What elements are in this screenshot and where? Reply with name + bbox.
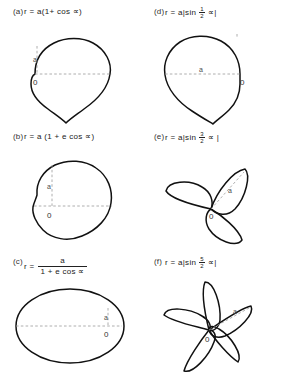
radius-label: a [199, 66, 203, 73]
panel-a-plot: a 0 [0, 24, 140, 125]
panel-f-svg: a 0 [141, 274, 281, 375]
rose-petal [184, 330, 215, 371]
panel-d-tag: (d) [141, 6, 165, 17]
panel-e-equation-lead: r = a|sin [165, 132, 196, 143]
panel-e-plot: a 0 [141, 149, 281, 250]
panel-f-plot: a 0 [141, 274, 281, 375]
origin-label: 0 [33, 78, 38, 87]
radius-guide [209, 308, 249, 330]
panel-a: (a) r = a(1+ cos ∝) a 0 [0, 0, 140, 125]
radius-label: a [233, 308, 237, 315]
panel-e-svg: a 0 [141, 149, 281, 250]
radius-label: a [33, 56, 37, 63]
panel-d-fraction: 1 2 [199, 6, 205, 19]
cardioid-curve [31, 39, 110, 124]
cardioid-left-curve [165, 36, 240, 124]
panel-d-plot: a 0 [141, 24, 281, 125]
panel-e-fraction: 3 2 [199, 131, 205, 144]
panel-c-plot: a 0 [0, 274, 140, 375]
panel-c-svg: a 0 [0, 274, 140, 375]
panel-e: (e) r = a|sin 3 2 ∝ | [141, 125, 281, 250]
panel-f-frac-denominator: 2 [199, 262, 205, 269]
rose-petal [166, 182, 212, 209]
origin-label: 0 [240, 78, 245, 87]
origin-label: 0 [47, 211, 52, 220]
dimpled-limacon-curve [33, 161, 112, 239]
panel-e-equation: r = a|sin 3 2 ∝ | [165, 131, 219, 144]
panel-f-equation-lead: r = a|sin [165, 257, 196, 268]
panel-c-tag: (c) [0, 256, 24, 267]
radius-label: a [104, 314, 108, 321]
rose-petal [203, 282, 220, 331]
panel-e-equation-trail: ∝ | [208, 132, 219, 143]
panel-f-equation-trail: ∝| [208, 257, 217, 268]
panel-b-plot: a 0 [0, 149, 140, 250]
panel-a-equation: r = a(1+ cos ∝) [24, 6, 82, 17]
rose-petal [209, 306, 252, 337]
panel-f-equation: r = a|sin 5 2 ∝| [165, 256, 217, 269]
panel-d-equation: r = a|sin 1 2 ∝| [165, 6, 217, 19]
panel-c: (c) r = a 1 + e cos ∝ a 0 [0, 250, 140, 375]
radius-label: a [228, 187, 232, 194]
panel-f: (f) r = a|sin 5 2 ∝| [141, 250, 281, 375]
panel-d: (d) r = a|sin 1 2 ∝| a 0 [141, 0, 281, 125]
panel-d-equation-lead: r = a|sin [165, 7, 196, 18]
origin-label: 0 [104, 330, 109, 339]
panel-f-tag: (f) [141, 256, 165, 267]
origin-label: 0 [205, 335, 210, 344]
rose-petal [164, 309, 210, 330]
panel-b-equation-text: r = a (1 + e cos ∝) [24, 131, 94, 142]
panel-b-tag: (b) [0, 131, 24, 142]
panel-b-equation: r = a (1 + e cos ∝) [24, 131, 94, 142]
panel-a-tag: (a) [0, 6, 24, 17]
panel-d-svg: a 0 [141, 24, 281, 125]
radius-label: a [47, 183, 51, 190]
rose-3-petals [166, 169, 248, 243]
panel-d-equation-trail: ∝| [208, 7, 217, 18]
panel-e-frac-denominator: 2 [199, 137, 205, 144]
origin-label: 0 [209, 212, 214, 221]
panel-a-svg: a 0 [0, 24, 140, 125]
rose-5-petals [164, 282, 252, 371]
panel-c-equation-lead: r = [24, 261, 34, 272]
panel-e-tag: (e) [141, 131, 165, 142]
panel-d-frac-denominator: 2 [199, 12, 205, 19]
panel-b: (b) r = a (1 + e cos ∝) a 0 [0, 125, 140, 250]
polar-curves-figure: (a) r = a(1+ cos ∝) a 0 (d) r = a|sin [0, 0, 281, 376]
panel-b-svg: a 0 [0, 149, 140, 250]
panel-a-equation-text: r = a(1+ cos ∝) [24, 6, 82, 17]
panel-c-frac-numerator: a [58, 256, 67, 266]
panel-f-fraction: 5 2 [199, 256, 205, 269]
